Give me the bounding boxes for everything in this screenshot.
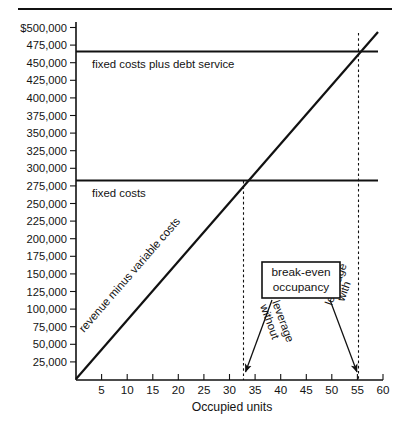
x-tick-label: 55	[351, 383, 364, 396]
y-tick-label: 475,000	[27, 39, 67, 51]
x-tick-label: 15	[146, 383, 159, 396]
x-tick-label: 50	[325, 383, 338, 396]
x-tick-label: 35	[249, 383, 262, 396]
x-axis-ticks	[102, 374, 383, 380]
y-tick-label: 350,000	[27, 127, 67, 139]
y-tick-label: 375,000	[27, 110, 67, 122]
fixed-costs-label: fixed costs	[92, 187, 146, 199]
x-tick-label: 40	[274, 383, 287, 396]
y-tick-label: 175,000	[27, 250, 67, 262]
with-leverage-arrow	[330, 300, 357, 372]
y-axis-ticks	[70, 28, 76, 362]
x-tick-label: 5	[98, 383, 104, 396]
y-tick-label: 250,000	[27, 198, 67, 210]
chart-svg: $500,000 475,000 450,000 425,000 400,000…	[0, 0, 397, 422]
break-even-callout-line2: occupancy	[273, 280, 329, 294]
y-tick-label: 400,000	[27, 92, 67, 104]
break-even-callout-line1: break-even	[271, 265, 330, 279]
y-tick-label: 50,000	[33, 338, 67, 350]
y-tick-label: 225,000	[27, 215, 67, 227]
y-tick-label: 300,000	[27, 162, 67, 174]
x-axis-tick-labels: 5 10 15 20 25 30 35 40 45 50 55 60	[98, 383, 389, 396]
y-tick-label: 25,000	[33, 356, 67, 368]
y-tick-label: 125,000	[27, 286, 67, 298]
x-axis-title: Occupied units	[192, 400, 273, 414]
y-tick-label: $500,000	[20, 22, 67, 34]
y-tick-label: 100,000	[27, 303, 67, 315]
x-tick-label: 60	[377, 383, 390, 396]
break-even-occupancy-callout: break-even occupancy	[262, 262, 340, 298]
fixed-costs-plus-debt-service-label: fixed costs plus debt service	[92, 58, 234, 70]
y-tick-label: 425,000	[27, 74, 67, 86]
x-tick-label: 10	[121, 383, 134, 396]
revenue-minus-variable-costs-line	[76, 32, 378, 379]
x-tick-label: 30	[223, 383, 236, 396]
y-tick-label: 275,000	[27, 180, 67, 192]
y-tick-label: 150,000	[27, 268, 67, 280]
y-tick-label: 325,000	[27, 145, 67, 157]
y-tick-label: 200,000	[27, 233, 67, 245]
y-tick-label: 450,000	[27, 57, 67, 69]
y-axis-tick-labels: $500,000 475,000 450,000 425,000 400,000…	[20, 22, 67, 368]
x-tick-label: 20	[172, 383, 185, 396]
x-tick-label: 45	[300, 383, 313, 396]
break-even-chart-figure: $500,000 475,000 450,000 425,000 400,000…	[0, 0, 397, 422]
y-tick-label: 75,000	[33, 321, 67, 333]
x-tick-label: 25	[197, 383, 210, 396]
